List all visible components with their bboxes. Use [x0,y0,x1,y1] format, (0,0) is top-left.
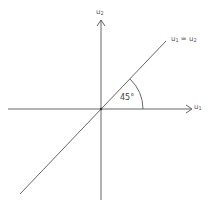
diagonal-line [20,41,166,194]
angle-label: 45° [120,94,134,102]
vertical-axis-label: u2 [96,9,104,16]
horizontal-axis-label: u1 [194,104,202,111]
diagonal-rhs-subscript: 2 [193,37,196,43]
origin-point [100,108,102,110]
diagonal-equals: = [181,35,187,43]
vertical-axis-subscript: 2 [100,10,103,16]
diagonal-lhs-subscript: 1 [175,37,178,43]
diagonal-line-label: u1 = u2 [171,36,197,43]
coordinate-diagram [0,0,212,206]
horizontal-axis-subscript: 1 [198,105,201,111]
